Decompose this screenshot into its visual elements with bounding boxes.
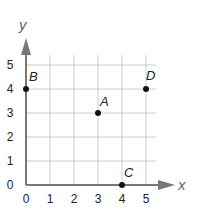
- point-label-a: A: [99, 94, 109, 109]
- data-points: ABCD: [23, 68, 155, 188]
- point-d: [143, 86, 149, 92]
- point-label-d: D: [146, 68, 155, 83]
- y-tick-label: 5: [7, 58, 14, 72]
- y-tick-label: 0: [7, 178, 14, 192]
- x-tick-label: 0: [23, 192, 30, 206]
- y-tick-label: 4: [7, 82, 14, 96]
- x-axis-label: x: [177, 176, 186, 193]
- x-tick-label: 5: [143, 192, 150, 206]
- y-tick-label: 2: [7, 130, 14, 144]
- x-tick-label: 2: [71, 192, 78, 206]
- point-c: [119, 182, 125, 188]
- y-tick-label: 1: [7, 154, 14, 168]
- x-tick-label: 1: [47, 192, 54, 206]
- y-axis-arrow-icon: [21, 38, 31, 55]
- point-b: [23, 86, 29, 92]
- x-tick-label: 4: [119, 192, 126, 206]
- coordinate-plane: y x 012345012345 ABCD: [0, 0, 197, 212]
- grid-lines: [26, 55, 156, 185]
- x-tick-label: 3: [95, 192, 102, 206]
- x-axis-arrow-icon: [158, 180, 175, 190]
- point-a: [95, 110, 101, 116]
- y-axis-label: y: [18, 16, 28, 33]
- y-tick-label: 3: [7, 106, 14, 120]
- point-label-b: B: [29, 69, 38, 84]
- point-label-c: C: [124, 165, 134, 180]
